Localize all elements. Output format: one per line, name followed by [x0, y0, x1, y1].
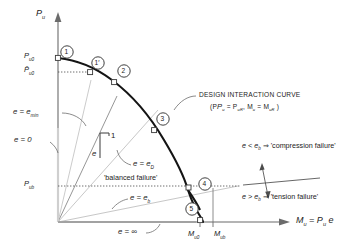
x-axis-title-eq: = P	[307, 215, 323, 225]
slope-rise-label: 1	[111, 132, 115, 140]
cap2-open: (P	[210, 103, 217, 110]
marker-label-4: 4	[203, 181, 207, 188]
label-e-min: e = emin	[13, 108, 38, 116]
label-compression-failure: e < eb ⇒ 'compression failure'	[242, 142, 336, 149]
e-b-sub: b	[148, 199, 151, 204]
leader-e-b	[112, 199, 128, 209]
curve-caption-line2: (PPu = PuR, Mu = MuR )	[210, 103, 279, 111]
y-tick-pu0-sub: u0	[29, 57, 34, 62]
marker-label-1: 1	[65, 49, 69, 56]
y-axis-title: Pu	[36, 9, 45, 18]
y-axis-arrowhead	[55, 12, 62, 22]
slope-triangle	[100, 133, 109, 158]
point-marker-5	[198, 218, 203, 223]
compression-lhs: e < e	[242, 141, 258, 150]
x-tick-mub-sub: ub	[220, 235, 225, 240]
point-marker-2	[112, 80, 117, 85]
x-axis-arrowhead	[279, 218, 290, 225]
marker-label-3: 3	[161, 116, 165, 123]
label-balanced-failure: 'balanced failure'	[104, 174, 158, 181]
e-min-lhs: e = e	[13, 107, 31, 116]
region-divider-line	[243, 178, 320, 185]
figure-canvas	[0, 0, 361, 250]
y-tick-label-pu0: Pu0	[24, 52, 34, 60]
y-tick-label-pub: Pub	[24, 180, 34, 188]
leader-e-infinity	[146, 224, 160, 233]
compression-rhs: ⇒ 'compression failure'	[261, 141, 336, 150]
leader-curve-label	[174, 96, 196, 110]
interaction-curve-figure: Pu Mu = Pu e Pu0 P̄u0 Pub Mu0 Mub 1 1′ 2…	[0, 0, 361, 250]
point-marker-4	[186, 185, 191, 190]
x-tick-mu0-sub: u0	[194, 235, 199, 240]
label-e-D: e = eD	[133, 160, 154, 168]
cap2-mid2: , M	[243, 103, 253, 110]
e-D-sub: D	[151, 165, 155, 170]
label-e-zero: e = 0	[14, 136, 32, 144]
region-arrow-up	[259, 163, 264, 170]
e-D-lhs: e = e	[133, 159, 151, 168]
x-tick-label-mub: Mub	[214, 230, 225, 238]
x-axis-title-m: M	[296, 215, 304, 225]
e-b-lhs: e = e	[130, 193, 148, 202]
label-tension-failure: e > eb ⇒ 'tension failure'	[242, 193, 318, 200]
y-tick-pu0bar-sub: u0	[29, 71, 34, 76]
cap2-close: )	[275, 103, 279, 110]
label-e-infinity: e = ∞	[118, 228, 137, 236]
tension-rhs: ⇒ 'tension failure'	[261, 192, 319, 201]
marker-label-5: 5	[190, 206, 194, 213]
label-e-b: e = eb	[130, 194, 150, 202]
point-marker-3	[152, 128, 157, 133]
marker-label-1-prime: 1′	[95, 60, 100, 67]
tension-lhs: e > e	[242, 192, 258, 201]
cap2-mid1: = P	[225, 103, 238, 110]
point-marker-1-prime	[88, 70, 93, 75]
leader-lines	[50, 96, 196, 233]
cap2-mid3: = M	[255, 103, 269, 110]
point-marker-1	[55, 55, 60, 60]
x-axis-title-e: e	[326, 215, 334, 225]
ray-e-min	[58, 80, 91, 222]
x-axis-title: Mu = Pu e	[296, 216, 334, 225]
curve-caption-line1: DESIGN INTERACTION CURVE	[199, 92, 300, 99]
y-tick-label-pu0-bar: P̄u0	[24, 66, 34, 74]
ray-point-2	[58, 96, 117, 222]
leader-e-zero	[50, 142, 58, 153]
e-min-sub: min	[31, 113, 39, 118]
y-tick-pub-sub: ub	[29, 185, 34, 190]
marker-1-prime-tick: ′	[98, 59, 99, 66]
x-tick-label-mu0: Mu0	[188, 230, 199, 238]
leader-e-D	[117, 150, 131, 165]
y-axis-title-sub: u	[42, 14, 45, 20]
marker-label-2: 2	[122, 68, 126, 75]
leader-e-min	[62, 113, 86, 126]
slope-run-label: e	[92, 150, 96, 158]
